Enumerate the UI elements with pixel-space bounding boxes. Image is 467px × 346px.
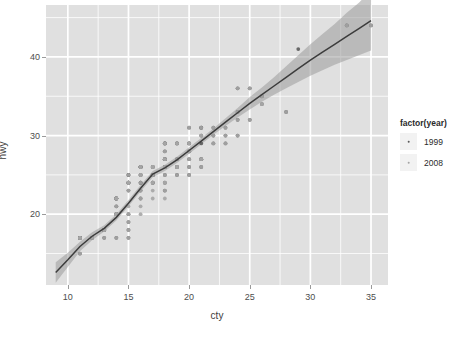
confidence-band [56,0,371,283]
legend-items: 19992008 [400,133,464,171]
plot-panel [46,5,388,285]
x-tick-label: 20 [184,292,194,302]
y-tick-mark [42,214,46,215]
legend-point-icon [407,140,410,143]
x-tick-mark [371,285,372,289]
x-tick-label: 15 [123,292,133,302]
legend-item-2008[interactable]: 2008 [400,154,464,171]
x-tick-mark [68,285,69,289]
x-tick-mark [189,285,190,289]
y-tick-mark [42,136,46,137]
plot-data-layer [46,5,388,285]
y-axis-title: hwy [0,142,8,160]
y-tick-label: 20 [18,209,40,219]
legend-title: factor(year) [400,118,464,128]
x-tick-label: 25 [245,292,255,302]
x-tick-label: 30 [305,292,315,302]
x-axis-title: cty [46,310,388,321]
legend-point-icon [407,161,410,164]
legend-item-label: 2008 [424,158,443,168]
x-tick-mark [128,285,129,289]
ggplot-scatter-chart: cty hwy factor(year) 19992008 2030401015… [0,0,467,346]
x-tick-label: 10 [63,292,73,302]
y-tick-label: 40 [18,52,40,62]
y-tick-label: 30 [18,131,40,141]
legend-item-1999[interactable]: 1999 [400,133,464,150]
legend-item-label: 1999 [424,137,443,147]
x-tick-label: 35 [366,292,376,302]
legend-key-swatch [400,154,417,171]
x-tick-mark [310,285,311,289]
legend-key-swatch [400,133,417,150]
y-tick-mark [42,57,46,58]
x-tick-mark [250,285,251,289]
legend: factor(year) 19992008 [400,118,464,175]
